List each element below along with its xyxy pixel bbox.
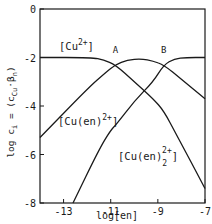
svg-text:log ci = (cCu·βn): log ci = (cCu·βn) [5, 66, 19, 157]
y-tick-label: -6 [24, 150, 36, 161]
y-tick-label: -2 [24, 53, 36, 64]
curve-label: [Cu(en)22+] [118, 146, 178, 168]
axis-ticks: -13-11-9-70-2-4-6-8 [24, 4, 211, 217]
curve-label: [Cu(en)2+] [58, 113, 118, 127]
y-tick-label: -4 [24, 101, 36, 112]
curve-label: [Cu2+] [59, 38, 94, 52]
y-axis-label: log ci = (cCu·βn) [5, 66, 19, 157]
annotation-B: B [161, 45, 166, 55]
plot-frame [40, 9, 205, 203]
x-tick-label: -9 [152, 206, 164, 217]
x-tick-label: -13 [55, 206, 73, 217]
y-tick-label: -8 [24, 198, 36, 209]
x-tick-label: -7 [199, 206, 211, 217]
x-axis-label: log[en] [96, 210, 138, 221]
curve-2 [73, 58, 205, 204]
curves [40, 58, 205, 204]
annotation-A: A [113, 45, 119, 55]
speciation-chart: -13-11-9-70-2-4-6-8 [Cu2+][Cu(en)2+][Cu(… [0, 0, 212, 224]
y-tick-label: 0 [30, 4, 36, 15]
